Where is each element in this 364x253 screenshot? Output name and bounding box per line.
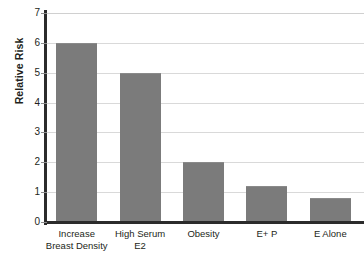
bar <box>56 43 97 222</box>
y-axis-tick-mark <box>41 43 47 44</box>
bar <box>246 186 287 222</box>
y-axis-tick-mark <box>41 73 47 74</box>
y-axis-tick-mark <box>41 192 47 193</box>
y-axis-tick-label: 7 <box>4 8 40 18</box>
y-axis-tick-labels: 01234567 <box>0 0 40 253</box>
bar <box>310 198 351 222</box>
y-axis-tick-label: 5 <box>4 68 40 78</box>
y-axis-tick-label: 2 <box>4 157 40 167</box>
y-axis-tick-label: 4 <box>4 98 40 108</box>
y-axis-tick-mark <box>41 132 47 133</box>
y-axis-tick-label: 6 <box>4 38 40 48</box>
grid-line <box>47 13 364 14</box>
x-axis-tick-labels: IncreaseBreast DensityHigh SerumE2Obesit… <box>47 228 364 253</box>
y-axis-tick-mark <box>41 103 47 104</box>
bar-chart: Relative Risk 01234567 IncreaseBreast De… <box>0 0 364 253</box>
y-axis-tick-label: 0 <box>4 217 40 227</box>
y-axis-tick-mark <box>41 222 47 223</box>
plot-area <box>47 13 364 222</box>
y-axis-tick-label: 3 <box>4 127 40 137</box>
y-axis-tick-mark <box>41 13 47 14</box>
y-axis-tick-mark <box>41 162 47 163</box>
y-axis-tick-label: 1 <box>4 187 40 197</box>
x-axis-tick-label: E Alone <box>275 228 364 240</box>
bar <box>183 162 224 222</box>
bar <box>120 73 161 222</box>
x-axis-line <box>44 221 364 224</box>
